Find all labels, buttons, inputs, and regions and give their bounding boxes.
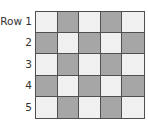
row-label-4: 4 <box>0 75 32 96</box>
row-labels: Row 1 2 3 4 5 <box>0 11 32 118</box>
grid-cell-r3-c3 <box>79 54 101 75</box>
grid-cell-r2-c5 <box>122 33 144 54</box>
grid-cell-r1-c4 <box>101 12 123 33</box>
grid-cell-r2-c4 <box>101 33 123 54</box>
grid-cell-r3-c1 <box>36 54 58 75</box>
grid-cell-r5-c5 <box>122 97 144 118</box>
grid-cell-r4-c3 <box>79 76 101 97</box>
grid-cell-r1-c2 <box>58 12 80 33</box>
grid-cell-r3-c4 <box>101 54 123 75</box>
grid-cell-r3-c2 <box>58 54 80 75</box>
grid-cell-r2-c3 <box>79 33 101 54</box>
row-label-3: 3 <box>0 54 32 75</box>
row-label-5: 5 <box>0 97 32 118</box>
checkerboard-grid <box>35 11 145 119</box>
grid-cell-r4-c4 <box>101 76 123 97</box>
grid-cell-r2-c2 <box>58 33 80 54</box>
grid-cell-r1-c3 <box>79 12 101 33</box>
row-label-1: Row 1 <box>0 11 32 32</box>
grid-cell-r5-c4 <box>101 97 123 118</box>
grid-cell-r4-c2 <box>58 76 80 97</box>
grid-cell-r1-c1 <box>36 12 58 33</box>
row-label-2: 2 <box>0 32 32 53</box>
grid-cell-r1-c5 <box>122 12 144 33</box>
grid-cell-r5-c2 <box>58 97 80 118</box>
grid-cell-r5-c3 <box>79 97 101 118</box>
grid-cell-r3-c5 <box>122 54 144 75</box>
grid-cell-r4-c1 <box>36 76 58 97</box>
grid-cell-r2-c1 <box>36 33 58 54</box>
grid-cell-r5-c1 <box>36 97 58 118</box>
grid-cell-r4-c5 <box>122 76 144 97</box>
